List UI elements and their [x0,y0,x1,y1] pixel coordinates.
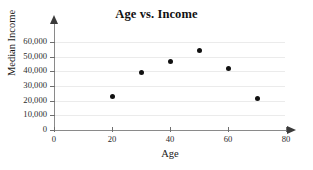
y-tick-mark [50,57,55,58]
y-tick-mark [50,86,55,87]
x-tick-mark [228,127,229,132]
data-point [255,96,260,101]
y-tick-mark [50,71,55,72]
x-tick-label: 60 [216,134,240,144]
y-tick-label: 20,000 [1,95,47,105]
y-tick-label: 60,000 [1,36,47,46]
x-tick-mark [170,127,171,132]
y-tick-mark [50,115,55,116]
x-tick-label: 80 [274,134,298,144]
gridline [54,115,285,116]
gridline [54,86,285,87]
scatter-chart: Age vs. Income Median Income Age 010,000… [0,0,313,170]
chart-title: Age vs. Income [0,7,313,22]
x-axis-line [54,130,288,131]
x-tick-label: 0 [42,134,66,144]
x-tick-mark [286,127,287,132]
data-point [168,59,173,64]
y-tick-label: 0 [1,124,47,134]
x-tick-mark [112,127,113,132]
x-tick-label: 40 [158,134,182,144]
x-tick-label: 20 [100,134,124,144]
y-tick-label: 10,000 [1,109,47,119]
y-axis-arrow-icon [50,15,58,24]
x-axis-arrow-icon [287,126,296,134]
data-point [197,48,202,53]
y-tick-mark [50,101,55,102]
gridline [54,57,285,58]
y-axis-line [54,22,55,130]
y-tick-label: 40,000 [1,65,47,75]
data-point [110,94,115,99]
data-point [226,66,231,71]
gridline [54,42,285,43]
y-tick-label: 30,000 [1,80,47,90]
data-point [139,70,144,75]
x-axis-title: Age [54,148,286,159]
gridline [54,101,285,102]
x-tick-mark [54,127,55,132]
y-tick-label: 50,000 [1,51,47,61]
gridline [54,71,285,72]
y-tick-mark [50,42,55,43]
plot-area [54,24,285,130]
